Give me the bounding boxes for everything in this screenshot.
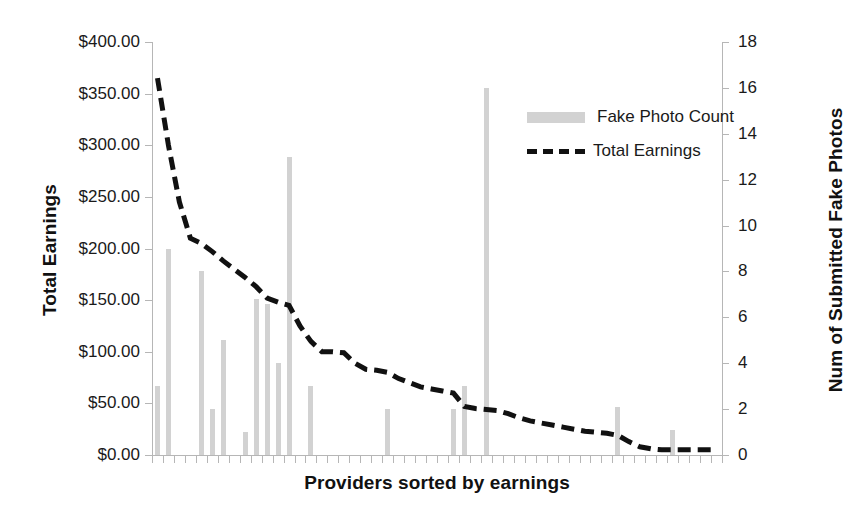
y-axis-right-tick-label: 4 bbox=[738, 354, 778, 371]
x-axis-tick bbox=[207, 456, 208, 463]
y-axis-left-tick bbox=[145, 145, 152, 146]
x-axis-tick bbox=[305, 456, 306, 463]
y-axis-left-tick bbox=[145, 249, 152, 250]
y-axis-right-tick-label: 18 bbox=[738, 33, 778, 50]
x-axis-tick bbox=[284, 456, 285, 463]
x-axis-tick bbox=[514, 456, 515, 463]
x-axis-tick bbox=[426, 456, 427, 463]
x-axis-tick bbox=[349, 456, 350, 463]
y-axis-left-tick-label: $0.00 bbox=[44, 446, 140, 463]
x-axis-tick bbox=[382, 456, 383, 463]
legend-item-total-earnings: Total Earnings bbox=[527, 134, 734, 168]
y-axis-left-tick-label: $250.00 bbox=[44, 188, 140, 205]
x-axis-tick bbox=[481, 456, 482, 463]
y-axis-right-tick bbox=[722, 271, 729, 272]
x-axis-tick bbox=[371, 456, 372, 463]
x-axis-tick bbox=[196, 456, 197, 463]
y-axis-left-tick-label: $150.00 bbox=[44, 291, 140, 308]
x-axis-tick bbox=[612, 456, 613, 463]
x-axis-tick bbox=[623, 456, 624, 463]
chart-container: Total Earnings Num of Submitted Fake Pho… bbox=[0, 0, 864, 517]
y-axis-left-tick-label: $50.00 bbox=[44, 394, 140, 411]
x-axis-tick bbox=[448, 456, 449, 463]
y-axis-right-tick bbox=[722, 42, 729, 43]
y-axis-right-tick-label: 0 bbox=[738, 446, 778, 463]
x-axis-tick bbox=[327, 456, 328, 463]
x-axis-tick bbox=[360, 456, 361, 463]
y-axis-right-tick bbox=[722, 317, 729, 318]
y-axis-right-tick bbox=[722, 226, 729, 227]
x-axis-tick bbox=[590, 456, 591, 463]
dashed-line-icon bbox=[527, 149, 585, 154]
x-axis-tick bbox=[547, 456, 548, 463]
x-axis-tick bbox=[316, 456, 317, 463]
bar-swatch-icon bbox=[527, 112, 585, 123]
x-axis-tick bbox=[152, 456, 153, 463]
x-axis-tick bbox=[470, 456, 471, 463]
x-axis-tick bbox=[525, 456, 526, 463]
y-axis-left-tick bbox=[145, 403, 152, 404]
x-axis-tick bbox=[218, 456, 219, 463]
y-axis-left-tick-label: $400.00 bbox=[44, 33, 140, 50]
chart-legend: Fake Photo Count Total Earnings bbox=[527, 100, 734, 168]
x-axis-tick bbox=[700, 456, 701, 463]
x-axis-tick bbox=[503, 456, 504, 463]
x-axis-tick bbox=[393, 456, 394, 463]
y-axis-right-tick bbox=[722, 88, 729, 89]
y-axis-left-tick-label: $200.00 bbox=[44, 240, 140, 257]
x-axis-tick bbox=[580, 456, 581, 463]
y-axis-right-tick-label: 8 bbox=[738, 262, 778, 279]
y-axis-left-tick bbox=[145, 352, 152, 353]
y-axis-left-tick-label: $350.00 bbox=[44, 85, 140, 102]
y-axis-left-tick bbox=[145, 42, 152, 43]
legend-item-fake-photo-count: Fake Photo Count bbox=[527, 100, 734, 134]
y-axis-right-tick-label: 14 bbox=[738, 125, 778, 142]
y-axis-right-tick-label: 2 bbox=[738, 400, 778, 417]
y-axis-right-tick-label: 6 bbox=[738, 308, 778, 325]
x-axis-tick bbox=[415, 456, 416, 463]
x-axis-tick bbox=[634, 456, 635, 463]
y-axis-right-tick bbox=[722, 409, 729, 410]
y-axis-left-tick bbox=[145, 455, 152, 456]
legend-label-fake-photo-count: Fake Photo Count bbox=[597, 107, 734, 127]
x-axis-tick bbox=[569, 456, 570, 463]
x-axis-tick bbox=[338, 456, 339, 463]
y-axis-right-tick-label: 10 bbox=[738, 217, 778, 234]
x-axis-tick bbox=[251, 456, 252, 463]
x-axis-tick bbox=[536, 456, 537, 463]
y-axis-right-tick bbox=[722, 180, 729, 181]
x-axis-tick bbox=[185, 456, 186, 463]
x-axis-tick bbox=[163, 456, 164, 463]
x-axis-tick bbox=[645, 456, 646, 463]
y-axis-right-title-wrapper: Num of Submitted Fake Photos bbox=[812, 20, 852, 480]
y-axis-right-tick-label: 12 bbox=[738, 171, 778, 188]
x-axis-tick bbox=[711, 456, 712, 463]
x-axis-tick bbox=[678, 456, 679, 463]
x-axis-tick bbox=[667, 456, 668, 463]
legend-label-total-earnings: Total Earnings bbox=[593, 141, 701, 161]
x-axis-tick bbox=[273, 456, 274, 463]
y-axis-right-tick bbox=[722, 455, 729, 456]
y-axis-left-tick-label: $100.00 bbox=[44, 343, 140, 360]
x-axis-tick bbox=[295, 456, 296, 463]
x-axis-tick bbox=[558, 456, 559, 463]
y-axis-right-title: Num of Submitted Fake Photos bbox=[825, 50, 847, 450]
x-axis-tick bbox=[722, 456, 723, 463]
x-axis-tick bbox=[262, 456, 263, 463]
x-axis-tick bbox=[404, 456, 405, 463]
x-axis-tick bbox=[459, 456, 460, 463]
y-axis-left-tick bbox=[145, 197, 152, 198]
x-axis-tick bbox=[656, 456, 657, 463]
x-axis-tick bbox=[174, 456, 175, 463]
x-axis-tick bbox=[240, 456, 241, 463]
x-axis-tick bbox=[437, 456, 438, 463]
x-axis-tick bbox=[229, 456, 230, 463]
x-axis-tick bbox=[689, 456, 690, 463]
y-axis-right-tick bbox=[722, 363, 729, 364]
y-axis-left-tick bbox=[145, 94, 152, 95]
y-axis-left-tick-label: $300.00 bbox=[44, 136, 140, 153]
y-axis-left-title-wrapper: Total Earnings bbox=[6, 40, 40, 460]
y-axis-left-tick bbox=[145, 300, 152, 301]
x-axis-title: Providers sorted by earnings bbox=[152, 472, 722, 494]
x-axis-tick bbox=[492, 456, 493, 463]
